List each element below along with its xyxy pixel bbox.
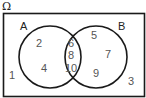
outside-value: 1: [9, 69, 15, 81]
set-a-label: A: [20, 20, 28, 32]
outside-value: 3: [128, 75, 134, 87]
only-b-value: 7: [105, 48, 111, 60]
only-b-value: 5: [91, 29, 97, 41]
only-a-value: 4: [41, 62, 47, 74]
universe-label: Ω: [2, 0, 11, 13]
intersection-value: 6: [68, 37, 74, 49]
venn-diagram: Ω A B 2 4 6 8 10 5 7 9 1 3: [0, 0, 146, 98]
only-a-value: 2: [36, 37, 42, 49]
intersection-value: 10: [65, 62, 77, 74]
set-b-label: B: [118, 20, 125, 32]
only-b-value: 9: [93, 67, 99, 79]
intersection-value: 8: [68, 49, 74, 61]
